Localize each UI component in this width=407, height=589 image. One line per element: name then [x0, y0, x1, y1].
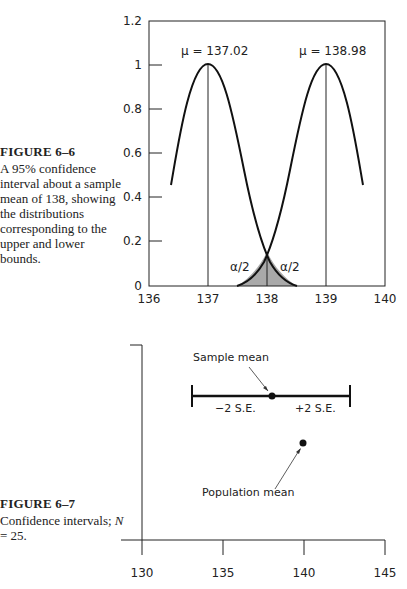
minus-2-se-label: −2 S.E. [215, 402, 256, 415]
y-axis-ticks [149, 65, 162, 241]
svg-text:139: 139 [315, 292, 338, 306]
normal-distributions-chart: μ = 137.02 μ = 138.98 α/2 α/2 1.2 1 0.8 … [123, 14, 397, 306]
alpha-left-label: α/2 [230, 260, 250, 274]
confidence-interval-chart: 130 135 140 145 Sample mean −2 S.E. +2 S… [121, 345, 396, 580]
population-mean-point [300, 440, 307, 447]
sample-mean-label: Sample mean [193, 351, 269, 364]
svg-text:138: 138 [256, 292, 279, 306]
population-mean-label: Population mean [202, 486, 295, 499]
svg-text:140: 140 [293, 566, 316, 580]
svg-text:130: 130 [131, 566, 154, 580]
mu-right-label: μ = 138.98 [299, 44, 366, 58]
upper-bound-distribution-curve [237, 64, 363, 286]
mu-left-label: μ = 137.02 [181, 44, 248, 58]
svg-text:1.2: 1.2 [123, 14, 142, 28]
sample-mean-point [269, 393, 276, 400]
svg-text:137: 137 [197, 292, 220, 306]
population-mean-arrow [275, 449, 300, 489]
svg-text:1: 1 [134, 58, 142, 72]
svg-text:135: 135 [212, 566, 235, 580]
lower-bound-distribution-curve [171, 64, 297, 286]
svg-text:0.2: 0.2 [123, 234, 142, 248]
figures-canvas: μ = 137.02 μ = 138.98 α/2 α/2 1.2 1 0.8 … [0, 0, 407, 589]
x-axis-labels: 130 135 140 145 [131, 566, 397, 580]
svg-text:140: 140 [374, 292, 397, 306]
svg-text:0: 0 [134, 279, 142, 293]
svg-text:0.8: 0.8 [123, 102, 142, 116]
plus-2-se-label: +2 S.E. [295, 402, 336, 415]
svg-text:136: 136 [138, 292, 161, 306]
alpha-right-label: α/2 [280, 260, 300, 274]
y-axis-labels: 1.2 1 0.8 0.6 0.4 0.2 0 [123, 14, 142, 293]
x-axis-ticks [223, 540, 385, 555]
svg-text:0.6: 0.6 [123, 146, 142, 160]
svg-text:145: 145 [374, 566, 397, 580]
x-axis-labels: 136 137 138 139 140 [138, 292, 397, 306]
plot-frame [149, 21, 385, 286]
svg-text:0.4: 0.4 [123, 190, 142, 204]
